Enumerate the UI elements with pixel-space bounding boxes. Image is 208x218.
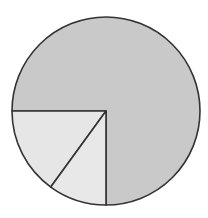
pie-slices (12, 17, 200, 205)
pie-chart (0, 0, 208, 218)
